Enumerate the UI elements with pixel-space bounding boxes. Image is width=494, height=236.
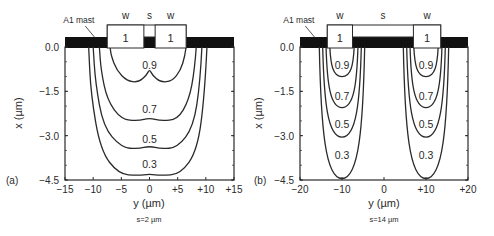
electrode-width-label: s [380,10,385,21]
x-axis-label: y (µm) [133,197,164,209]
contour-label: 0.7 [335,90,350,102]
y-tick-label: −4.5 [39,175,59,186]
x-tick-label: 0 [147,184,153,195]
mask-leader-line [305,26,315,38]
contour-label: 0.9 [419,59,434,71]
contour-group: 0.90.70.50.30.90.70.50.3 [319,47,448,179]
contour-label: 0.7 [142,103,157,115]
x-tick-label: −10 [334,184,351,195]
y-tick-label: −3.0 [274,131,294,142]
x-axis-label: y (µm) [368,197,399,209]
y-tick-label: 0.0 [280,42,294,53]
y-tick-label: −1.5 [39,86,59,97]
electrode-width-label: w [166,10,175,21]
electrode-width-label: s [147,10,152,21]
mask-bar [300,37,468,48]
x-tick-label: 0 [381,184,387,195]
y-tick-label: −3.0 [39,131,59,142]
electrode-width-label: w [422,10,431,21]
y-tick-label: −4.5 [274,175,294,186]
y-tick-label: 0.0 [45,42,59,53]
plot-frame [300,47,468,180]
contour-label: 0.7 [419,90,434,102]
x-tick-label: +10 [418,184,435,195]
contour-label: 0.5 [142,133,157,145]
mask-label: A1 mast [63,15,95,25]
x-tick-label: +15 [226,184,243,195]
contour-label: 0.3 [419,149,434,161]
electrode-value: 1 [168,32,174,44]
caption: s=2 µm [137,215,162,224]
panel-b: A1 mast−20−100+10+200.0−1.5−3.0−4.5y (µm… [252,10,477,224]
x-tick-label: +10 [197,184,214,195]
panel-label: (b) [254,175,266,186]
electrode-width-label: w [335,10,344,21]
x-tick-label: −10 [85,184,102,195]
x-tick-label: −5 [116,184,128,195]
x-tick-label: −15 [57,184,74,195]
contour-label: 0.9 [142,59,157,71]
contour-label: 0.3 [142,158,157,170]
y-axis-label: x (µm) [12,97,24,128]
x-tick-label: +5 [172,184,184,195]
electrode-value: 1 [122,32,128,44]
mask-leader-line [85,26,95,38]
x-tick-label: +20 [460,184,477,195]
electrode-width-label: w [121,10,130,21]
electrode-value: 1 [424,32,430,44]
panel-a: A1 mast−15−10−50+5+10+150.0−1.5−3.0−4.5y… [6,10,243,224]
caption: s=14 µm [369,215,398,224]
panel-label: (a) [6,175,18,186]
contour-label: 0.9 [335,59,350,71]
contour-group: 0.90.70.50.3 [89,47,207,175]
x-tick-label: −20 [292,184,309,195]
contour-label: 0.5 [419,118,434,130]
mask-label: A1 mast [283,15,315,25]
contour-label: 0.3 [335,149,350,161]
electrode-value: 1 [337,32,343,44]
mask-bar [65,37,234,48]
figure: A1 mast−15−10−50+5+10+150.0−1.5−3.0−4.5y… [0,0,494,236]
y-axis-label: x (µm) [252,97,264,128]
contour-label: 0.5 [335,118,350,130]
y-tick-label: −1.5 [274,86,294,97]
